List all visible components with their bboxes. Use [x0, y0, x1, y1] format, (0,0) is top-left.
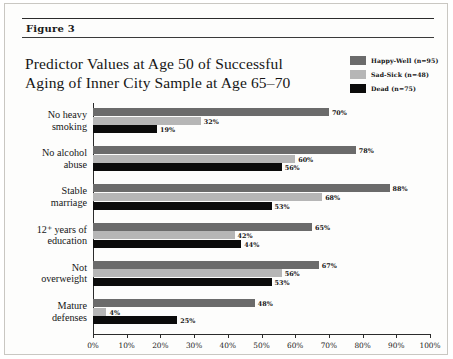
bar-value-label: 70% — [332, 109, 347, 117]
bar-value-label: 56% — [285, 270, 300, 278]
category-label-line-1: 12⁺ years of — [11, 224, 87, 236]
bar-group: No alcoholabuse78%60%56% — [93, 146, 430, 171]
bar-value-label: 53% — [275, 278, 290, 286]
legend-item: Dead (n=75) — [350, 83, 453, 94]
bar-happy-well — [93, 108, 329, 116]
bar-dead — [93, 278, 272, 286]
x-axis-tick — [127, 334, 128, 338]
legend-item-label: Sad-Sick (n=48) — [371, 71, 429, 78]
bar-value-label: 53% — [275, 202, 290, 210]
bar-group: 12⁺ years ofeducation65%42%44% — [93, 223, 430, 248]
category-label-line-1: No heavy — [11, 109, 87, 121]
bar-value-label: 78% — [359, 147, 374, 155]
bar-value-label: 4% — [109, 308, 120, 316]
x-axis-tick — [262, 334, 263, 338]
figure-label-band: Figure 3 — [22, 18, 434, 38]
bar-value-label: 19% — [160, 126, 175, 134]
x-axis-tick — [396, 334, 397, 338]
bar-happy-well — [93, 184, 390, 192]
chart-title: Predictor Values at Age 50 of Successful… — [25, 54, 315, 92]
bar-value-label: 25% — [180, 317, 195, 325]
x-axis-tick-label: 50% — [253, 341, 269, 350]
bar-value-label: 65% — [315, 223, 330, 231]
x-axis-tick-label: 40% — [220, 341, 236, 350]
legend-swatch-dead — [350, 84, 366, 93]
figure-frame: Figure 3 Predictor Values at Age 50 of S… — [4, 3, 448, 355]
bar-dead — [93, 125, 157, 133]
x-axis-tick-label: 60% — [287, 341, 303, 350]
category-label-line-2: education — [11, 235, 87, 247]
bar-sad-sick — [93, 117, 201, 125]
chart-title-line-2: Aging of Inner City Sample at Age 65–70 — [25, 73, 315, 92]
bar-value-label: 42% — [238, 232, 253, 240]
category-label: Maturedefenses — [11, 300, 87, 323]
x-axis-tick — [93, 334, 94, 338]
category-label-line-1: Stable — [11, 185, 87, 197]
category-label: No alcoholabuse — [11, 147, 87, 170]
category-label-line-2: overweight — [11, 273, 87, 285]
bar-value-label: 88% — [393, 185, 408, 193]
bar-value-label: 60% — [298, 155, 313, 163]
bar-happy-well — [93, 261, 319, 269]
x-axis-tick-label: 0% — [87, 341, 99, 350]
category-label-line-2: marriage — [11, 197, 87, 209]
x-axis-tick — [329, 334, 330, 338]
bar-sad-sick — [93, 155, 295, 163]
x-axis-tick-label: 10% — [118, 341, 134, 350]
category-label-line-1: No alcohol — [11, 147, 87, 159]
x-axis-tick — [194, 334, 195, 338]
bar-value-label: 48% — [258, 300, 273, 308]
bar-value-label: 32% — [204, 117, 219, 125]
bar-happy-well — [93, 146, 356, 154]
legend-swatch-happy-well — [350, 56, 366, 65]
x-axis-tick — [160, 334, 161, 338]
category-label: No heavysmoking — [11, 109, 87, 132]
bar-dead — [93, 240, 241, 248]
x-axis-tick-label: 70% — [321, 341, 337, 350]
category-label-line-1: Not — [11, 262, 87, 274]
bar-value-label: 44% — [244, 240, 259, 248]
bar-group: Maturedefenses48%4%25% — [93, 299, 430, 324]
plot-area: 0%10%20%30%40%50%60%70%80%90%100% No hea… — [93, 103, 430, 334]
bar-group: No heavysmoking70%32%19% — [93, 108, 430, 133]
bar-happy-well — [93, 223, 312, 231]
legend-item: Sad-Sick (n=48) — [350, 69, 453, 80]
category-label-line-2: smoking — [11, 121, 87, 133]
bar-dead — [93, 163, 282, 171]
bar-sad-sick — [93, 231, 235, 239]
legend-item-label: Happy-Well (n=95) — [371, 57, 438, 64]
legend-item: Happy-Well (n=95) — [350, 55, 453, 66]
category-label: 12⁺ years ofeducation — [11, 224, 87, 247]
category-label-line-2: abuse — [11, 159, 87, 171]
category-label-line-2: defenses — [11, 312, 87, 324]
x-axis-tick-label: 20% — [152, 341, 168, 350]
bar-group: Stablemarriage88%68%53% — [93, 184, 430, 209]
x-axis-tick-label: 30% — [186, 341, 202, 350]
bar-sad-sick — [93, 269, 282, 277]
bar-value-label: 56% — [285, 164, 300, 172]
x-axis-tick — [363, 334, 364, 338]
bar-group: Notoverweight67%56%53% — [93, 261, 430, 286]
chart-legend: Happy-Well (n=95)Sad-Sick (n=48)Dead (n=… — [350, 55, 453, 97]
legend-swatch-sad-sick — [350, 70, 366, 79]
bar-happy-well — [93, 299, 255, 307]
category-label: Stablemarriage — [11, 185, 87, 208]
x-axis-tick-label: 100% — [419, 341, 440, 350]
bar-sad-sick — [93, 193, 322, 201]
bar-value-label: 68% — [325, 193, 340, 201]
bar-value-label: 67% — [322, 261, 337, 269]
x-axis-tick — [228, 334, 229, 338]
bar-dead — [93, 316, 177, 324]
x-axis-tick — [295, 334, 296, 338]
category-label: Notoverweight — [11, 262, 87, 285]
figure-rule-bottom — [22, 37, 434, 38]
legend-item-label: Dead (n=75) — [371, 85, 416, 92]
x-axis-tick-label: 80% — [354, 341, 370, 350]
bar-dead — [93, 202, 272, 210]
x-axis-tick — [430, 334, 431, 338]
bar-sad-sick — [93, 308, 106, 316]
category-label-line-1: Mature — [11, 300, 87, 312]
chart-title-line-1: Predictor Values at Age 50 of Successful — [25, 54, 315, 73]
x-axis-tick-label: 90% — [388, 341, 404, 350]
figure-label: Figure 3 — [22, 19, 434, 37]
